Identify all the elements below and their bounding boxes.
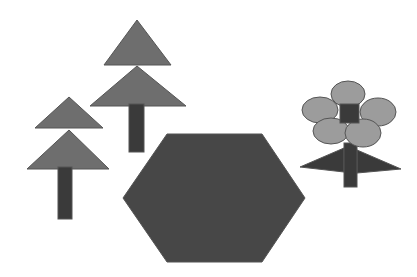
shapes-illustration bbox=[0, 0, 417, 277]
small-tree-trunk-shape bbox=[58, 167, 72, 219]
flower-petal-top-shape bbox=[331, 81, 365, 107]
large-tree-trunk-shape bbox=[129, 104, 144, 152]
flower-center-square-shape bbox=[340, 104, 359, 123]
scene-canvas: Abstract Shape Scene bbox=[0, 0, 417, 277]
flower-stem-shape bbox=[344, 143, 357, 187]
